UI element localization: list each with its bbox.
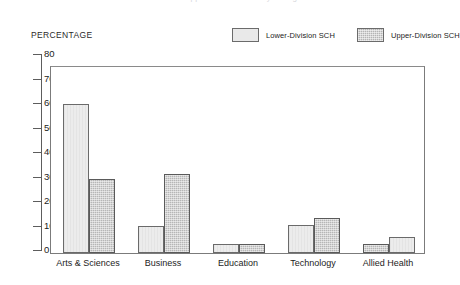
bar [164,174,190,253]
bar [239,244,265,253]
x-axis-label: Arts & Sciences [56,258,120,268]
y-axis-title: PERCENTAGE [31,30,92,40]
legend-swatch-lower-division-icon [232,28,259,42]
y-axis-tick-mark [33,177,42,178]
y-axis-tick-mark [33,79,42,80]
bars-layer [51,67,424,253]
y-axis: 01020304050607080 [20,48,52,254]
bar [288,225,314,253]
y-axis-tick-mark [33,54,42,55]
y-axis-tick-mark [33,226,42,227]
legend-label-upper-division: Upper-Division SCH [391,31,460,40]
clipped-chart-title-text: Lower- and Upper-Division SCH by College [140,0,302,2]
x-axis-label: Business [145,258,182,268]
y-axis-tick-mark [33,152,42,153]
y-axis-tick-mark [33,103,42,104]
bar [389,237,415,253]
legend-swatch-upper-division-icon [357,28,384,42]
legend-item-upper-division: Upper-Division SCH [357,28,460,42]
y-axis-tick-label: 80 [44,49,55,59]
y-axis-tick-label: 0 [44,245,49,255]
chart-legend: Lower-Division SCH Upper-Division SCH [232,28,460,42]
plot-area [50,66,425,254]
y-axis-tick-mark [33,128,42,129]
bar [63,104,89,253]
legend-item-lower-division: Lower-Division SCH [232,28,335,42]
bar [138,226,164,253]
clipped-chart-title: Lower- and Upper-Division SCH by College [0,0,442,7]
bar [314,218,340,253]
bar [89,179,115,253]
bar [213,244,239,253]
legend-label-lower-division: Lower-Division SCH [266,31,335,40]
y-axis-tick-mark [33,250,42,251]
x-axis-labels: Arts & SciencesBusinessEducationTechnolo… [50,258,425,276]
x-axis-label: Technology [290,258,336,268]
x-axis-label: Allied Health [363,258,414,268]
x-axis-label: Education [218,258,258,268]
bar [363,244,389,253]
y-axis-tick-mark [33,201,42,202]
